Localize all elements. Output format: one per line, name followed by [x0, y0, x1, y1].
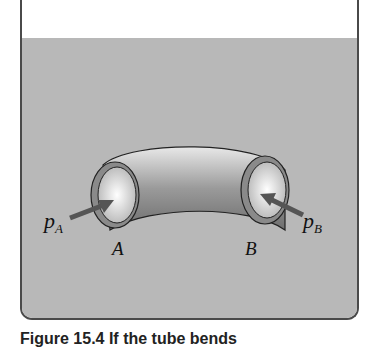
- pressure-b-subscript: B: [314, 221, 322, 236]
- pressure-b-label: pB: [303, 208, 322, 237]
- pressure-a-symbol: p: [44, 208, 55, 233]
- tube-end-b: [241, 156, 289, 224]
- pressure-b-symbol: p: [303, 208, 314, 233]
- tube-end-a: [91, 162, 139, 228]
- end-a-label: A: [112, 238, 124, 260]
- pressure-a-subscript: A: [55, 221, 63, 236]
- figure: pA pB A B Figure 15.4 If the tube bends: [0, 0, 378, 348]
- figure-caption: Figure 15.4 If the tube bends: [20, 330, 237, 348]
- pressure-a-label: pA: [44, 208, 63, 237]
- end-b-label: B: [245, 238, 257, 260]
- bent-tube-diagram: [0, 0, 378, 348]
